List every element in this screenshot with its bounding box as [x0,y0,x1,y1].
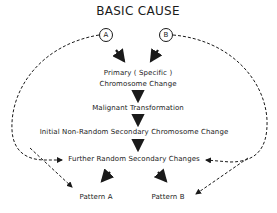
branch-a-marker: A [99,28,113,42]
arrow-further-to-pattern-a [102,172,110,181]
dashed-path-a-to-further [12,35,99,160]
node-initial-secondary-change: Initial Non-Random Secondary Chromosome … [40,128,229,136]
node-primary-line2: Chromosome Change [99,80,176,88]
arrow-b-to-primary [151,50,158,61]
dashed-path-b-to-pattern-b [196,158,248,194]
node-primary-line1: Primary ( Specific ) [104,69,172,77]
arrow-further-to-pattern-b [158,172,166,181]
dashed-path-b-to-further [173,35,267,162]
node-malignant-transformation: Malignant Transformation [92,104,184,112]
dashed-path-a-to-pattern-a [30,148,72,187]
branch-b-marker: B [159,28,173,42]
node-pattern-a: Pattern A [79,193,112,201]
node-pattern-b: Pattern B [151,193,184,201]
diagram-title: BASIC CAUSE [96,4,180,18]
node-further-random-changes: Further Random Secondary Changes [68,155,200,163]
arrow-a-to-primary [116,50,124,61]
